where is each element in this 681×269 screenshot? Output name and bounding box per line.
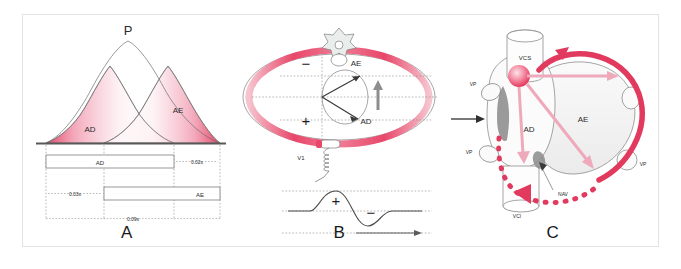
panel-c-graphic: VCS VP VP VP AD AE NAV VCI [447,14,659,247]
ecg-p-wave-trace [288,191,422,226]
ad-bar-label: AD [96,160,105,166]
panel-b-ae-label: AE [351,59,362,68]
pointer-arrow [451,115,485,123]
panel-b-ad-label: AD [360,117,371,126]
ae-bar-label: AE [196,192,204,198]
panel-c-ae-label: AE [578,115,589,124]
svc-opening [507,30,543,42]
ae-label: AE [173,106,184,115]
vp-right-label: VP [640,161,647,167]
panel-c-ad-label: AD [523,125,534,134]
positive-pole-label: + [302,112,311,129]
measure-002-label: 0.02s [191,159,204,165]
panel-a: P AD AE AD AE 0.02s 0.03s 0.09s A [22,14,232,247]
panel-c: VCS VP VP VP AD AE NAV VCI C [447,14,659,247]
negative-pole-label: − [302,55,311,72]
panel-b-graphic: − + AE AD V1 + − [232,14,447,247]
ad-label: AD [84,125,95,134]
panel-b-letter: B [232,223,447,243]
ad-duration-bar [46,155,174,168]
ecg-positive-label: + [332,192,341,209]
ecg-negative-label: − [367,204,376,221]
panel-a-graphic: P AD AE AD AE 0.02s 0.03s 0.09s [22,14,232,247]
v1-label: V1 [297,155,305,161]
p-wave-label: P [124,23,133,38]
figure-root: P AD AE AD AE 0.02s 0.03s 0.09s A [0,0,681,269]
measure-003-label: 0.03s [69,191,82,197]
vp-upper-left-label: VP [470,81,477,87]
vp-lower-left-label: VP [466,149,473,155]
v1-electrode [315,140,340,182]
panel-c-letter: C [447,223,659,243]
panel-a-letter: A [22,223,232,243]
measure-009-label: 0.09s [127,216,140,222]
vci-label: VCI [513,213,521,219]
panel-b: − + AE AD V1 + − B [232,14,447,247]
v1-lead-wire [315,148,329,182]
vcs-label: VCS [519,55,531,61]
sinus-node [508,65,530,87]
nav-label: NAV [558,191,569,197]
